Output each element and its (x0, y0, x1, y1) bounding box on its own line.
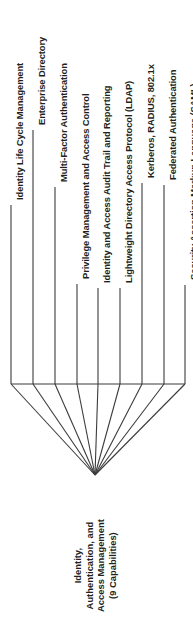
fan-ray-9 (95, 384, 185, 475)
capability-label-8: Federated Authentication (168, 70, 177, 180)
capability-label-6: Lightweight Directory Access Protocol (L… (124, 81, 133, 283)
fan-ray-6 (95, 384, 120, 475)
capability-label-3: Multi-Factor Authentication (59, 63, 68, 182)
root-label-line-1: Identity, (72, 519, 84, 612)
capability-label-2: Enterprise Directory (37, 37, 46, 125)
fan-ray-7 (95, 384, 142, 475)
root-label-line-2: Authentication, and (84, 519, 96, 612)
capability-label-9: Security Assertion Markup Language (SAML… (189, 83, 193, 280)
root-label-line-3: Access Management (95, 519, 107, 612)
capability-label-1: Identity Life Cycle Management (15, 63, 24, 200)
root-label-line-4: (9 Capabilities) (107, 519, 119, 612)
capability-label-7: Kerberos, RADIUS, 802.1x (146, 64, 155, 178)
fan-ray-5 (95, 384, 98, 475)
fan-ray-8 (95, 384, 164, 475)
capability-label-4: Privilege Management and Access Control (81, 94, 90, 279)
root-node-label: Identity, Authentication, and Access Man… (72, 519, 118, 612)
capability-label-5: Identity and Access Audit Trail and Repo… (102, 86, 111, 283)
capability-fan-diagram: Identity Life Cycle Management Enterpris… (0, 0, 193, 621)
fan-ray-3 (55, 384, 95, 475)
fan-ray-1 (11, 384, 95, 475)
